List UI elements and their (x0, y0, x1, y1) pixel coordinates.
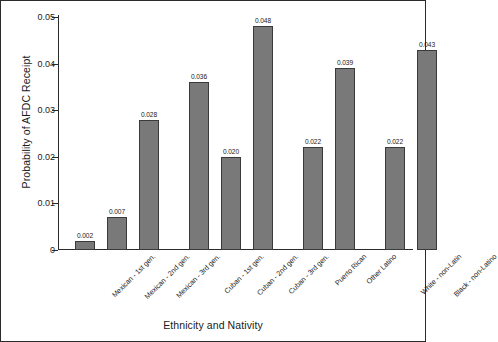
bar[interactable] (189, 82, 209, 250)
y-axis-tick-label: 0.02 (37, 152, 55, 162)
bar-series: 0.0020.0070.0280.0360.0200.0480.0220.039… (58, 15, 413, 250)
bar-column[interactable]: 0.007 (107, 15, 127, 250)
bar-value-label: 0.036 (191, 73, 207, 80)
x-axis-category-labels: Mexican - 1st gen.Mexican - 2nd gen.Mexi… (58, 252, 413, 314)
bar-column[interactable]: 0.036 (189, 15, 209, 250)
y-axis-tick-label: 0.05 (37, 12, 55, 22)
bar[interactable] (139, 120, 159, 250)
plot-area: 00.010.020.030.040.05 0.0020.0070.0280.0… (58, 15, 413, 250)
x-axis-category-label: Puerto Rican (333, 252, 368, 287)
y-axis-tick-label: 0.01 (37, 198, 55, 208)
bar-value-label: 0.002 (77, 232, 93, 239)
bar-value-label: 0.007 (109, 208, 125, 215)
bar-column[interactable]: 0.020 (221, 15, 241, 250)
bar-value-label: 0.020 (223, 148, 239, 155)
bar[interactable] (335, 68, 355, 250)
y-axis-tick-label: 0.04 (37, 59, 55, 69)
bar[interactable] (253, 26, 273, 250)
y-axis-title: Probability of AFDC Receipt (20, 22, 32, 222)
bar[interactable] (107, 217, 127, 250)
bar-value-label: 0.039 (337, 59, 353, 66)
bar-value-label: 0.022 (387, 138, 403, 145)
y-axis-tick-label: 0.03 (37, 105, 55, 115)
x-axis-category-label: Other Latino (364, 252, 398, 286)
bar-column[interactable]: 0.048 (253, 15, 273, 250)
bar[interactable] (417, 50, 437, 250)
x-axis-title: Ethnicity and Nativity (1, 319, 425, 331)
bar-column[interactable]: 0.022 (385, 15, 405, 250)
bar-value-label: 0.028 (141, 111, 157, 118)
bar[interactable] (75, 241, 95, 250)
bar-value-label: 0.022 (305, 138, 321, 145)
bar-column[interactable]: 0.022 (303, 15, 323, 250)
y-axis-tick-label: 0 (50, 245, 55, 255)
bar-column[interactable]: 0.039 (335, 15, 355, 250)
bar-column[interactable]: 0.028 (139, 15, 159, 250)
bar[interactable] (303, 147, 323, 250)
bar[interactable] (221, 157, 241, 250)
bar[interactable] (385, 147, 405, 250)
bar-value-label: 0.048 (255, 17, 271, 24)
bar-value-label: 0.043 (419, 41, 435, 48)
bar-column[interactable]: 0.002 (75, 15, 95, 250)
bar-column[interactable]: 0.043 (417, 15, 437, 250)
